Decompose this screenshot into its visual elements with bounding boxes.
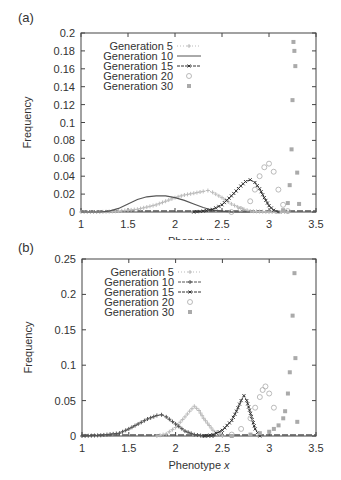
y-tick-label: 0.05 [55, 395, 76, 407]
chart-panel-a: (a) 00.020.040.060.080.10.120.140.160.18… [0, 0, 341, 240]
x-tick-label: 1 [79, 442, 85, 454]
x-tick-label: 3 [266, 218, 272, 230]
y-tick-label: 0.14 [54, 81, 75, 93]
y-tick-label: 0 [69, 206, 75, 218]
y-tick-label: 0.2 [61, 288, 76, 300]
y-tick-label: 0.18 [54, 45, 75, 57]
y-tick-label: 0.2 [60, 27, 75, 39]
y-axis-label: Frequency [21, 96, 33, 148]
y-tick-label: 0.04 [54, 170, 75, 182]
legend: Generation 5Generation 10Generation 15Ge… [103, 40, 201, 92]
x-tick-label: 3.5 [308, 218, 323, 230]
x-tick-label: 2.5 [215, 442, 230, 454]
chart-panel-b: (b) 00.050.10.150.20.2511.522.533.5Pheno… [0, 240, 341, 480]
x-tick-label: 2 [172, 218, 178, 230]
y-tick-label: 0.1 [60, 117, 75, 129]
y-tick-label: 0.25 [55, 253, 76, 265]
y-tick-label: 0.15 [55, 324, 76, 336]
series-generation-10 [80, 413, 215, 438]
x-tick-label: 3 [266, 442, 272, 454]
y-tick-label: 0.12 [54, 99, 75, 111]
series-generation-15 [202, 394, 261, 437]
y-tick-label: 0.06 [54, 152, 75, 164]
legend-entry: Generation 30 [104, 306, 174, 318]
chart-a-plot: 00.020.040.060.080.10.120.140.160.180.21… [0, 0, 341, 240]
x-axis-label: Phenotype x [168, 459, 230, 471]
x-tick-label: 3.5 [308, 442, 323, 454]
legend-entry: Generation 30 [103, 80, 173, 92]
x-tick-label: 1.5 [121, 442, 136, 454]
legend: Generation 5Generation 10Generation 15Ge… [104, 266, 202, 318]
y-tick-label: 0 [70, 430, 76, 442]
y-tick-label: 0.16 [54, 63, 75, 75]
x-tick-label: 2.5 [214, 218, 229, 230]
y-tick-label: 0.1 [61, 359, 76, 371]
x-tick-label: 2 [173, 442, 179, 454]
chart-b-plot: 00.050.10.150.20.2511.522.533.5Phenotype… [0, 240, 341, 480]
series-generation-30 [281, 40, 301, 212]
y-axis-label: Frequency [22, 321, 34, 373]
x-tick-label: 1 [78, 218, 84, 230]
x-tick-label: 1.5 [120, 218, 135, 230]
y-tick-label: 0.02 [54, 188, 75, 200]
y-tick-label: 0.08 [54, 134, 75, 146]
series-generation-30 [230, 271, 300, 438]
